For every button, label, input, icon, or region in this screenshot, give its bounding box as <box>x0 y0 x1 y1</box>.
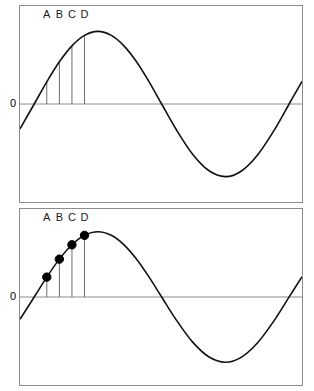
point-marker-a <box>43 273 51 281</box>
zero-axis-label-top: 0 <box>2 98 16 109</box>
zero-axis-label-bottom: 0 <box>2 291 16 302</box>
tick-label-d-top: D <box>78 9 92 20</box>
point-marker-d <box>80 231 88 239</box>
chart-panel-bottom <box>19 208 303 386</box>
point-marker-c <box>68 241 76 249</box>
sine-curve-plot-bottom <box>20 209 302 385</box>
chart-panel-top <box>19 5 303 203</box>
tick-lines-bottom <box>47 235 85 297</box>
tick-lines-top <box>47 35 85 104</box>
point-marker-b <box>55 255 63 263</box>
point-markers-bottom <box>43 231 89 281</box>
secant-to-tangent-figure: 0 A B C D 0 A B C D <box>0 0 314 391</box>
tick-label-d-bottom: D <box>78 212 92 223</box>
sine-curve-plot-top <box>20 6 302 202</box>
